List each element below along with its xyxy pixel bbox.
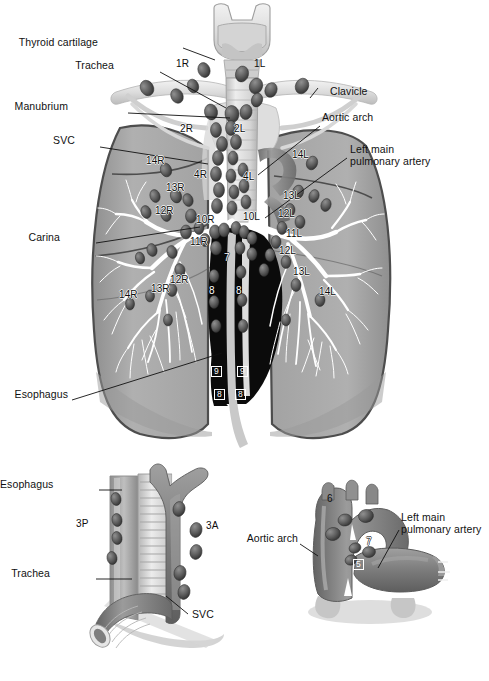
station-12r-low: 12R [170, 274, 189, 285]
annotation-svc: SVC [0, 134, 75, 146]
annotation-manubrium: Manubrium [0, 100, 68, 112]
lower-left-panel-art [86, 464, 224, 651]
station-6: 6 [327, 493, 333, 504]
station-13l-up: 13L [283, 190, 300, 201]
station-7: 7 [224, 252, 230, 263]
station-2r: 2R [180, 123, 193, 134]
station-9-left: 9 [237, 366, 248, 377]
station-1r: 1R [176, 58, 189, 69]
station-14r-up: 14R [146, 155, 165, 166]
station-10l: 10L [243, 211, 260, 222]
station-11r: 11R [190, 236, 208, 247]
station-5: 5 [353, 559, 364, 570]
station-12l-low: 12L [279, 245, 296, 256]
annotation-clavicle: Clavicle [330, 85, 368, 97]
station-13r-low: 13R [151, 283, 170, 294]
annotation-carina: Carina [0, 231, 60, 243]
station-12l-up: 12L [278, 208, 295, 219]
station-8-box-right: 8 [214, 389, 225, 400]
annotation-aortic-arch: Aortic arch [322, 111, 373, 123]
station-7-detail: 7 [366, 536, 372, 547]
station-8-box-left: 8 [235, 389, 246, 400]
annotation-esophagus: Esophagus [0, 388, 68, 400]
station-11l: 11L [286, 228, 302, 239]
lymph-node-map-figure: Thyroid cartilage Trachea Manubrium SVC … [0, 0, 489, 681]
station-8-left: 8 [236, 285, 242, 296]
annotation-trachea: Trachea [0, 59, 114, 71]
station-14r-low: 14R [119, 289, 138, 300]
station-4r: 4R [194, 169, 207, 180]
annotation-left-main-pa-detail: Left main pulmonary artery [401, 511, 481, 536]
station-2l: 2L [234, 123, 245, 134]
station-3a: 3A [206, 520, 218, 531]
annotation-trachea-detail: Trachea [0, 567, 50, 579]
annotation-left-main-pulmonary-artery: Left main pulmonary artery [350, 143, 430, 168]
annotation-esophagus-detail: Esophagus [0, 478, 36, 490]
station-12r-up: 12R [155, 205, 174, 216]
station-9-right: 9 [211, 366, 222, 377]
annotation-aortic-arch-detail: Aortic arch [235, 532, 298, 544]
annotation-thyroid-cartilage: Thyroid cartilage [0, 36, 98, 48]
station-14l-up: 14L [292, 149, 309, 160]
station-3p: 3P [76, 518, 88, 529]
station-13r-up: 13R [166, 182, 185, 193]
annotation-svc-detail: SVC [192, 608, 214, 620]
main-panel-art [92, 4, 390, 448]
station-1l: 1L [254, 58, 265, 69]
anatomical-illustration [0, 0, 489, 681]
station-4l: 4L [243, 171, 254, 182]
station-10r: 10R [196, 214, 215, 225]
station-13l-low: 13L [293, 266, 310, 277]
station-8-right: 8 [209, 285, 215, 296]
station-14l-low: 14L [319, 286, 336, 297]
